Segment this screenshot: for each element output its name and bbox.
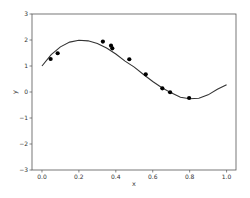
x-tick-label: 0.4: [111, 173, 121, 180]
x-tick-label: 0.2: [74, 173, 84, 180]
data-point: [127, 57, 131, 61]
x-tick-label: 0.8: [185, 173, 195, 180]
y-tick-label: −2: [19, 140, 28, 147]
y-tick-label: −1: [19, 114, 28, 121]
axes-frame: [32, 14, 236, 170]
y-tick-label: −3: [19, 166, 28, 173]
data-point: [168, 90, 172, 94]
data-point: [56, 51, 60, 55]
y-tick-label: 3: [24, 10, 28, 17]
fit-curve: [42, 40, 227, 99]
x-axis-ticks: 0.00.20.40.60.81.0: [37, 170, 231, 180]
data-point: [187, 96, 191, 100]
y-tick-label: 0: [24, 88, 28, 95]
data-point: [144, 72, 148, 76]
x-tick-label: 0.0: [37, 173, 47, 180]
data-point: [160, 86, 164, 90]
x-axis-label: x: [132, 180, 136, 188]
line-chart: 0.00.20.40.60.81.0 −3−2−10123 x y: [0, 0, 250, 198]
data-point: [110, 46, 114, 50]
x-tick-label: 1.0: [222, 173, 232, 180]
data-point: [49, 57, 53, 61]
y-tick-label: 2: [24, 36, 28, 43]
y-axis-ticks: −3−2−10123: [19, 10, 32, 173]
y-axis-label: y: [11, 90, 19, 94]
y-tick-label: 1: [24, 62, 28, 69]
data-point: [101, 39, 105, 43]
x-tick-label: 0.6: [148, 173, 158, 180]
plot-area: [42, 39, 227, 100]
